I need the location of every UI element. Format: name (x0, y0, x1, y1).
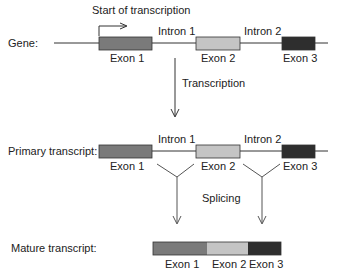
transcription-label: Transcription (182, 77, 245, 89)
start-arrow-icon (99, 26, 126, 36)
gene-exon-2 (196, 37, 240, 50)
primary-exon-1 (99, 145, 152, 158)
gene-splicing-diagram: Start of transcription Gene: Intron 1 In… (0, 0, 337, 277)
splicing-label: Splicing (202, 192, 241, 204)
gene-exon-1-label: Exon 1 (110, 52, 144, 64)
mature-exon-2-label: Exon 2 (212, 258, 246, 270)
primary-intron-2-label: Intron 2 (244, 133, 281, 145)
gene-intron-2-label: Intron 2 (244, 25, 281, 37)
mature-exon-2 (207, 242, 248, 255)
primary-exon-1-label: Exon 1 (110, 160, 144, 172)
primary-exon-3 (282, 145, 315, 158)
mature-label: Mature transcript: (11, 242, 97, 254)
gene-label: Gene: (8, 37, 38, 49)
gene-exon-2-label: Exon 2 (201, 52, 235, 64)
primary-exon-2-label: Exon 2 (201, 160, 235, 172)
start-label: Start of transcription (92, 4, 190, 16)
primary-exon-2 (196, 145, 240, 158)
primary-exon-3-label: Exon 3 (283, 160, 317, 172)
gene-exon-3 (282, 37, 315, 50)
primary-label: Primary transcript: (8, 145, 97, 157)
mature-exon-1 (153, 242, 207, 255)
gene-intron-1-label: Intron 1 (158, 25, 195, 37)
mature-exon-3-label: Exon 3 (249, 258, 283, 270)
splice-2-shape (243, 164, 280, 177)
mature-exon-1-label: Exon 1 (165, 258, 199, 270)
gene-exon-1 (99, 37, 152, 50)
mature-exon-3 (248, 242, 281, 255)
splice-1-shape (157, 164, 194, 177)
gene-exon-3-label: Exon 3 (283, 52, 317, 64)
primary-intron-1-label: Intron 1 (158, 133, 195, 145)
